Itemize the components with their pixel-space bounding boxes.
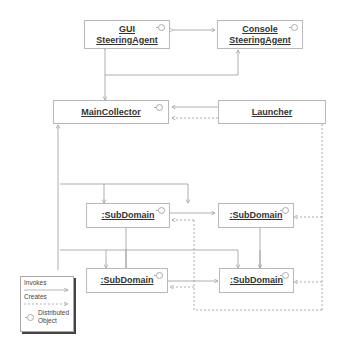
gui-steering-agent-node[interactable]: GUISteeringAgent <box>84 20 170 49</box>
node-label: :SubDomain <box>230 275 283 286</box>
console-steering-agent-node[interactable]: ConsoleSteeringAgent <box>217 20 303 49</box>
distributed-object-icon <box>291 24 298 31</box>
node-label: Launcher <box>252 107 293 118</box>
distributed-object-icon <box>158 207 165 214</box>
distributed-object-icon <box>282 272 289 279</box>
distributed-object-icon <box>158 24 165 31</box>
legend-distributed-label: Distributed <box>38 309 69 316</box>
subdomain-node-1[interactable]: :SubDomain <box>86 203 170 228</box>
node-label: :SubDomain <box>101 275 154 286</box>
legend-invokes-label: Invokes <box>24 279 46 286</box>
distributed-object-icon <box>156 104 163 111</box>
legend-creates-label: Creates <box>24 293 47 300</box>
node-label: GUI <box>119 24 135 34</box>
launcher-node[interactable]: Launcher <box>218 100 326 124</box>
node-label: Console <box>242 24 278 34</box>
legend: Invokes Creates DistributedObject <box>20 276 74 332</box>
node-label: :SubDomain <box>230 210 283 221</box>
main-collector-node[interactable]: MainCollector <box>53 100 169 124</box>
distributed-object-icon <box>282 207 289 214</box>
invokes-arrow-icon <box>24 288 70 292</box>
subdomain-node-2[interactable]: :SubDomain <box>218 203 294 228</box>
subdomain-node-4[interactable]: :SubDomain <box>219 268 294 293</box>
subdomain-node-3[interactable]: :SubDomain <box>86 268 168 293</box>
node-label: SteeringAgent <box>229 35 291 45</box>
distributed-object-icon <box>27 314 34 321</box>
node-label: SteeringAgent <box>96 35 158 45</box>
creates-arrow-icon <box>24 302 70 306</box>
distributed-object-icon <box>156 272 163 279</box>
legend-object-label: Object <box>38 317 57 324</box>
node-label: :SubDomain <box>102 210 155 221</box>
node-label: MainCollector <box>81 107 141 118</box>
